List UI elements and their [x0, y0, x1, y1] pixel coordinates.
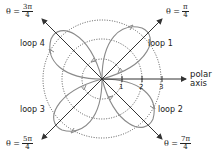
loop-3-label: loop 3	[20, 106, 45, 114]
theta-den: 4	[25, 144, 29, 151]
theta-den: 4	[183, 144, 187, 151]
loop-2-label: loop 2	[158, 106, 183, 114]
theta-pi-4-label: θ = π4	[166, 4, 189, 19]
theta-den: 4	[25, 12, 29, 19]
polar-axis-line2: axis	[190, 79, 212, 88]
loop-1-label: loop 1	[148, 40, 173, 48]
polar-axis-label: polar axis	[190, 70, 212, 88]
theta-3pi-4-label: θ = 3π4	[6, 4, 33, 19]
tick-2: 2	[139, 83, 143, 91]
theta-prefix: θ =	[166, 7, 180, 16]
theta-den: 4	[183, 12, 187, 19]
theta-prefix: θ =	[6, 139, 20, 148]
tick-3: 3	[159, 83, 163, 91]
loop-4-label: loop 4	[20, 40, 45, 48]
theta-7pi-4-label: θ = 7π4	[164, 136, 191, 151]
theta-prefix: θ =	[6, 7, 20, 16]
tick-1: 1	[119, 83, 123, 91]
theta-5pi-4-label: θ = 5π4	[6, 136, 33, 151]
theta-prefix: θ =	[164, 139, 178, 148]
